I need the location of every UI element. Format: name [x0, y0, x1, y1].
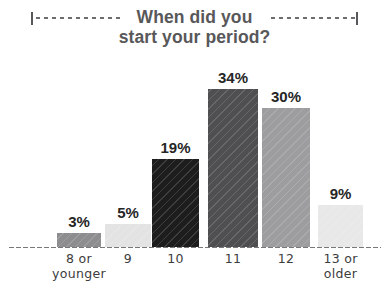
- x-axis-labels: 8 oryounger910111213 orolder: [0, 252, 389, 307]
- bar-column: 34%: [208, 0, 258, 247]
- bar-series: 3%5%19%34%30%9%: [0, 0, 389, 247]
- bar-column: 3%: [57, 0, 101, 247]
- bar-value-label: 9%: [312, 185, 369, 202]
- x-axis-tick-label: 13 orolder: [304, 252, 377, 282]
- x-axis-baseline: [8, 246, 381, 249]
- bar-column: 30%: [262, 0, 310, 247]
- bar-column: 9%: [318, 0, 363, 247]
- bar-value-label: 34%: [202, 69, 264, 86]
- bar: [262, 108, 310, 247]
- bar-value-label: 5%: [99, 204, 157, 221]
- chart-container: When did you start your period? 3%5%19%3…: [0, 0, 389, 307]
- bar-column: 5%: [105, 0, 151, 247]
- plot-area: 3%5%19%34%30%9% 8 oryounger910111213 oro…: [0, 0, 389, 307]
- bar: [208, 89, 258, 247]
- bar: [57, 233, 101, 247]
- bar-value-label: 30%: [256, 88, 316, 105]
- bar: [105, 224, 151, 247]
- bar: [152, 159, 199, 247]
- bar-value-label: 19%: [146, 139, 205, 156]
- bar-column: 19%: [152, 0, 199, 247]
- bar: [318, 205, 363, 247]
